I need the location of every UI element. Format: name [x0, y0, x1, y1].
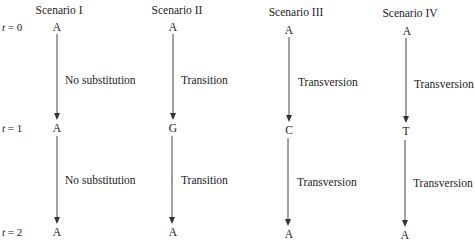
scenario-1-arrowhead-2 [54, 217, 60, 224]
scenario-2-arrowhead-1 [170, 113, 176, 120]
arrows-layer [0, 0, 475, 246]
scenario-1-arrowhead-1 [54, 113, 60, 120]
scenario-2-arrowhead-2 [169, 217, 175, 224]
scenario-3-arrowhead-2 [285, 219, 291, 226]
scenario-3-arrowhead-1 [286, 115, 292, 122]
scenario-4-arrowhead-1 [403, 116, 409, 123]
scenario-4-arrowhead-2 [402, 220, 408, 227]
